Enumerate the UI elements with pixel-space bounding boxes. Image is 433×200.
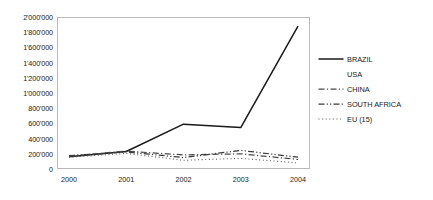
legend-label: BRAZIL (347, 55, 373, 64)
plot-series-svg (57, 17, 310, 169)
y-axis-tick-label: 400'000 (28, 134, 53, 143)
series-line-china (69, 151, 298, 159)
legend-item-brazil[interactable]: BRAZIL (318, 52, 373, 66)
series-line-brazil (69, 26, 298, 157)
series-line-eu-15 (69, 153, 298, 163)
legend-line-sample (318, 84, 344, 94)
y-axis-tick-label: 1'800'000 (23, 28, 53, 37)
y-axis-tick-label: 1'600'000 (23, 43, 53, 52)
y-axis-labels: 0200'000400'000600'000800'0001'000'0001'… (0, 0, 56, 200)
legend-line-sample (318, 114, 344, 124)
legend-item-eu-15[interactable]: EU (15) (318, 112, 372, 126)
legend-item-usa[interactable]: USA (318, 67, 362, 81)
chart-legend: BRAZILUSACHINASOUTH AFRICAEU (15) (318, 52, 433, 132)
legend-label: SOUTH AFRICA (347, 100, 401, 109)
line-chart: 0200'000400'000600'000800'0001'000'0001'… (0, 0, 433, 200)
x-axis-tick-label: 2000 (61, 175, 77, 184)
y-axis-tick-label: 200'000 (28, 149, 53, 158)
legend-line-sample (318, 99, 344, 109)
y-axis-tick-label: 1'200'000 (23, 73, 53, 82)
legend-line-sample (318, 54, 344, 64)
legend-label: EU (15) (347, 115, 372, 124)
x-axis-tick-label: 2001 (118, 175, 134, 184)
legend-item-china[interactable]: CHINA (318, 82, 370, 96)
legend-item-south-africa[interactable]: SOUTH AFRICA (318, 97, 401, 111)
x-axis-labels: 20002001200220032004 (57, 172, 310, 192)
y-axis-tick-label: 2'000'000 (23, 13, 53, 22)
legend-line-sample (318, 69, 344, 79)
x-axis-tick-label: 2002 (176, 175, 192, 184)
y-axis-tick-label: 800'000 (28, 104, 53, 113)
y-axis-tick-label: 1'000'000 (23, 89, 53, 98)
y-axis-tick-label: 1'400'000 (23, 58, 53, 67)
x-axis-tick-label: 2004 (290, 175, 306, 184)
legend-label: USA (347, 70, 362, 79)
y-axis-tick-label: 0 (49, 165, 53, 174)
legend-label: CHINA (347, 85, 370, 94)
x-axis-tick-label: 2003 (233, 175, 249, 184)
y-axis-tick-label: 600'000 (28, 119, 53, 128)
